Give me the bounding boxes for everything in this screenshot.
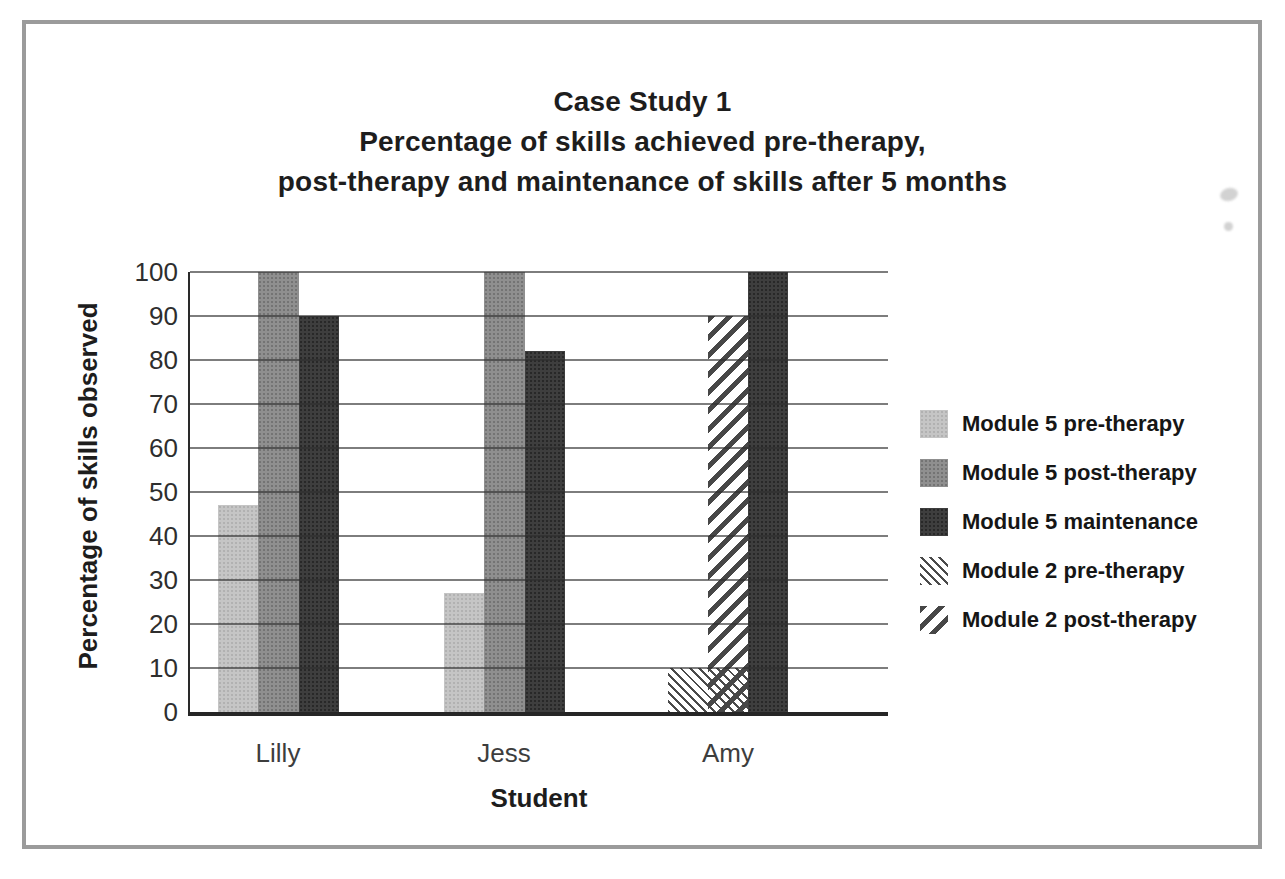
legend-swatch-hatch-thin: [920, 557, 948, 585]
y-tick-label-20: 20: [98, 609, 178, 639]
x-axis-line: [188, 712, 888, 716]
y-tick-label-90: 90: [98, 301, 178, 331]
bar-lilly-solid-medium: [258, 272, 299, 712]
bar-lilly-solid-dark: [299, 316, 339, 712]
y-axis-line: [188, 272, 190, 714]
legend-label-2: Module 5 post-therapy: [962, 459, 1197, 487]
legend-swatch-solid-light: [920, 410, 948, 438]
bar-jess-solid-light: [444, 593, 484, 712]
chart-title: Case Study 1 Percentage of skills achiev…: [0, 82, 1285, 202]
bar-amy-hatch-thick: [708, 316, 748, 712]
legend-label-5: Module 2 post-therapy: [962, 606, 1197, 634]
legend-swatch-hatch-thick: [920, 606, 948, 634]
legend-label-1: Module 5 pre-therapy: [962, 410, 1184, 438]
x-tick-label-jess: Jess: [444, 738, 564, 769]
y-tick-label-0: 0: [98, 697, 178, 727]
scan-artifact: [1224, 222, 1233, 231]
bar-jess-solid-dark: [525, 351, 565, 712]
y-tick-label-40: 40: [98, 521, 178, 551]
chart-title-line2: Percentage of skills achieved pre-therap…: [0, 122, 1285, 162]
bar-jess-solid-medium: [484, 272, 525, 712]
x-tick-label-lilly: Lilly: [218, 738, 338, 769]
plot-area: [190, 272, 888, 712]
x-tick-label-amy: Amy: [668, 738, 788, 769]
chart-title-line3: post-therapy and maintenance of skills a…: [0, 162, 1285, 202]
y-tick-label-70: 70: [98, 389, 178, 419]
y-tick-label-30: 30: [98, 565, 178, 595]
y-tick-label-10: 10: [98, 653, 178, 683]
y-tick-label-100: 100: [98, 257, 178, 287]
y-tick-label-80: 80: [98, 345, 178, 375]
legend-label-3: Module 5 maintenance: [962, 508, 1198, 536]
legend-swatch-solid-dark: [920, 508, 948, 536]
y-tick-label-50: 50: [98, 477, 178, 507]
y-tick-label-60: 60: [98, 433, 178, 463]
scanned-chart-page: Case Study 1 Percentage of skills achiev…: [0, 0, 1285, 879]
bar-lilly-solid-light: [218, 505, 258, 712]
legend-swatch-solid-medium: [920, 459, 948, 487]
chart-title-line1: Case Study 1: [0, 82, 1285, 122]
x-axis-title: Student: [190, 783, 888, 814]
legend-label-4: Module 2 pre-therapy: [962, 557, 1184, 585]
bar-amy-solid-dark: [748, 272, 788, 712]
